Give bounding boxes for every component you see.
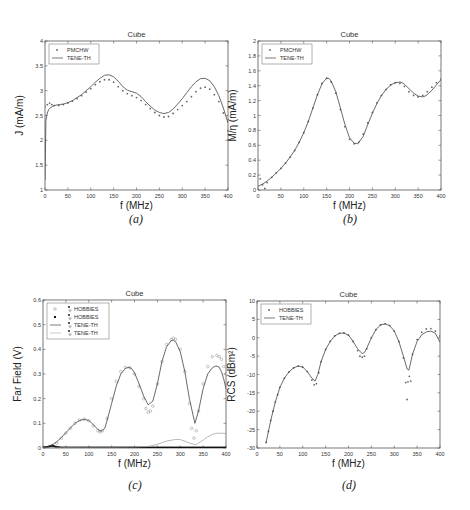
x-tick-label: 150 bbox=[107, 451, 116, 457]
y-tick-label: 4 bbox=[40, 38, 43, 44]
x-tick-label: 350 bbox=[413, 451, 422, 457]
y-tick-label: 1.2 bbox=[248, 98, 256, 104]
x-tick-label: 400 bbox=[436, 193, 445, 199]
data-marker bbox=[191, 96, 193, 98]
y-tick-label: 2 bbox=[253, 38, 256, 44]
x-tick-label: 400 bbox=[223, 193, 232, 199]
data-marker bbox=[413, 94, 415, 96]
chart-title: Cube bbox=[128, 30, 146, 39]
x-tick-label: 300 bbox=[176, 451, 185, 457]
data-marker bbox=[425, 328, 427, 330]
data-marker bbox=[104, 79, 106, 81]
x-tick-label: 300 bbox=[390, 451, 399, 457]
x-tick-label: 400 bbox=[435, 451, 444, 457]
x-axis-label: f (MHz) bbox=[118, 458, 151, 469]
y-tick-label: 0 bbox=[252, 335, 255, 341]
data-marker bbox=[431, 86, 433, 88]
legend: HOBBIESHOBBIESTENE-THTENE-TH bbox=[47, 303, 109, 339]
legend-label: PMCHW bbox=[67, 47, 89, 53]
chart-d: Cube050100150200250300350400-30-25-20-15… bbox=[226, 290, 445, 469]
x-tick-label: 150 bbox=[321, 451, 330, 457]
x-tick-label: 0 bbox=[41, 451, 44, 457]
x-tick-label: 250 bbox=[153, 451, 162, 457]
legend-symbol bbox=[56, 49, 58, 51]
chart-title: Cube bbox=[340, 290, 358, 299]
legend-label: HOBBIES bbox=[279, 307, 304, 313]
chart-title: Cube bbox=[126, 289, 144, 298]
y-axis-label: Far Field (V) bbox=[12, 346, 23, 402]
y-tick-label: 1.4 bbox=[248, 83, 256, 89]
legend-label: TENE-TH bbox=[279, 315, 303, 321]
x-tick-label: 200 bbox=[132, 193, 141, 199]
data-marker bbox=[163, 116, 165, 118]
data-marker bbox=[313, 384, 315, 386]
y-tick-label: -5 bbox=[250, 353, 255, 359]
x-axis-label: f (MHz) bbox=[333, 200, 366, 211]
data-marker bbox=[223, 112, 225, 114]
data-marker bbox=[430, 328, 432, 330]
data-marker bbox=[99, 81, 101, 83]
data-marker bbox=[117, 86, 119, 88]
data-marker bbox=[399, 83, 401, 85]
figure-stage: Cube05010015020025030035040011.522.533.5… bbox=[0, 0, 470, 510]
x-tick-label: 250 bbox=[155, 193, 164, 199]
y-tick-label: 2 bbox=[40, 137, 43, 143]
data-marker bbox=[122, 90, 124, 92]
x-tick-label: 0 bbox=[256, 193, 259, 199]
x-tick-label: 250 bbox=[368, 193, 377, 199]
x-tick-label: 350 bbox=[414, 193, 423, 199]
x-tick-label: 0 bbox=[255, 451, 258, 457]
data-marker bbox=[158, 115, 160, 117]
data-marker bbox=[168, 116, 170, 118]
y-tick-label: 1.6 bbox=[248, 68, 256, 74]
x-axis-label: f (MHz) bbox=[120, 200, 153, 211]
x-tick-label: 50 bbox=[65, 193, 71, 199]
data-marker bbox=[440, 78, 442, 80]
data-marker bbox=[218, 101, 220, 103]
legend-symbol bbox=[268, 309, 270, 311]
x-tick-label: 50 bbox=[278, 193, 284, 199]
x-axis-label: f (MHz) bbox=[332, 458, 365, 469]
y-tick-label: 0.5 bbox=[33, 322, 41, 328]
y-tick-label: -15 bbox=[247, 390, 255, 396]
x-tick-label: 100 bbox=[298, 451, 307, 457]
data-marker bbox=[213, 94, 215, 96]
y-tick-label: 0.4 bbox=[248, 157, 256, 163]
data-marker bbox=[49, 102, 51, 104]
y-tick-label: 0.3 bbox=[33, 371, 41, 377]
y-tick-label: 3.5 bbox=[35, 63, 43, 69]
legend: PMCHWTENE-TH bbox=[49, 44, 99, 64]
data-marker bbox=[195, 91, 197, 93]
data-marker bbox=[204, 86, 206, 88]
data-marker bbox=[311, 379, 313, 381]
chart-b: Cube05010015020025030035040000.20.40.60.… bbox=[227, 30, 446, 211]
data-marker bbox=[264, 188, 266, 190]
y-tick-label: -20 bbox=[247, 408, 255, 414]
data-marker bbox=[177, 109, 179, 111]
legend-label: TENE-TH bbox=[280, 55, 304, 61]
data-marker bbox=[44, 106, 46, 108]
y-axis-label: J (mA/m) bbox=[14, 95, 25, 136]
x-tick-label: 0 bbox=[43, 193, 46, 199]
legend-label: HOBBIES bbox=[74, 314, 99, 320]
data-marker bbox=[364, 355, 366, 357]
data-marker bbox=[439, 335, 441, 337]
x-tick-label: 250 bbox=[367, 451, 376, 457]
data-marker bbox=[209, 88, 211, 90]
y-tick-label: 1 bbox=[40, 187, 43, 193]
x-tick-label: 300 bbox=[178, 193, 187, 199]
caption-d: (d) bbox=[329, 478, 369, 493]
data-marker bbox=[426, 91, 428, 93]
figure-svg: Cube05010015020025030035040011.522.533.5… bbox=[0, 0, 470, 510]
y-tick-label: 0 bbox=[253, 187, 256, 193]
legend-label: TENE-TH bbox=[67, 55, 91, 61]
data-marker bbox=[200, 87, 202, 89]
y-tick-label: 0.2 bbox=[248, 172, 256, 178]
data-marker bbox=[404, 86, 406, 88]
data-marker bbox=[421, 331, 423, 333]
caption-a: (a) bbox=[116, 212, 156, 227]
x-tick-label: 200 bbox=[344, 451, 353, 457]
data-marker bbox=[131, 95, 133, 97]
y-tick-label: 5 bbox=[252, 316, 255, 322]
x-tick-label: 100 bbox=[299, 193, 308, 199]
